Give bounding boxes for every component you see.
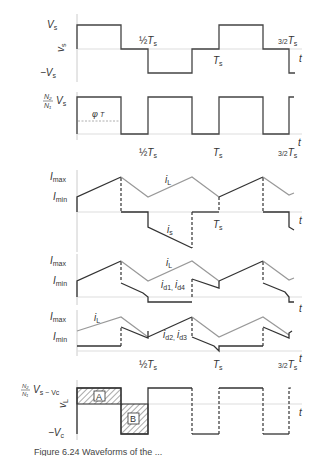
t-label: t: [299, 215, 303, 226]
imin-label: Imin: [53, 275, 67, 287]
three-half-ts-label: 3/2Ts: [278, 147, 298, 159]
area-a-label: A: [96, 392, 102, 402]
id14-waveform: [192, 279, 219, 288]
phi-label: φT: [92, 109, 105, 119]
il-waveform-gray: [192, 317, 289, 337]
t-label: t: [299, 353, 303, 364]
id23-waveform: [121, 327, 148, 338]
panel-primary-voltage: Vs vs −Vs ½Ts Ts 3/2Ts t: [40, 14, 303, 82]
id23-waveform: [263, 327, 292, 338]
il-label: iL: [165, 174, 171, 186]
neg-vs-label: −Vs: [40, 67, 57, 79]
id1-id4-label: id1, id4: [161, 279, 185, 291]
n1-label: N₁: [44, 102, 52, 109]
id23-waveform: [192, 337, 263, 351]
vs-level-label: Vs: [47, 19, 58, 31]
ts-label: Ts: [213, 147, 223, 159]
t-label: t: [299, 303, 303, 314]
secondary-waveform: [77, 97, 294, 134]
il-waveform-dark: [77, 177, 121, 212]
vs-axis-label: vs: [55, 43, 67, 52]
panel-diode-d2-d3-current: Imax Imin iL id2, id3 ½Ts Ts 3/2Ts t: [50, 310, 303, 371]
half-ts-label: ½Ts: [139, 147, 157, 159]
il-waveform-dark: [219, 177, 263, 197]
il-waveform-gray: [263, 177, 294, 195]
il-label: iL: [166, 257, 172, 269]
imin-label: Imin: [53, 331, 67, 343]
neg-vc-label: −Vc: [48, 427, 65, 439]
imax-label: Imax: [50, 171, 67, 183]
il-waveform-gray: [263, 261, 294, 280]
vs-secondary-label: Vs: [56, 95, 67, 107]
panel-inductor-voltage: A B N₂ N₁ Vs − Vc vL −Vc t: [21, 380, 303, 440]
n2-label: N₂: [22, 383, 29, 389]
imax-label: Imax: [50, 311, 67, 323]
panel-switch-current: Imax Imin iL is Ts t: [50, 170, 303, 252]
ts-label: Ts: [213, 55, 223, 67]
n2-label: N₂: [44, 93, 52, 100]
t-label: t: [299, 407, 303, 418]
three-half-ts-label: 3/2Ts: [278, 359, 298, 371]
figure-caption: Figure 6.24 Waveforms of the ...: [34, 447, 162, 456]
id2-id3-label: id2, id3: [163, 329, 187, 341]
vs-minus-vc-label: Vs − Vc: [33, 384, 60, 396]
half-ts-label: ½Ts: [139, 359, 157, 371]
t-label: t: [298, 137, 302, 148]
three-half-ts-label: 3/2Ts: [278, 35, 298, 47]
panel-diode-d1-d4-current: Imax Imin iL id1, id4 t: [50, 254, 303, 314]
t-label: t: [299, 53, 303, 64]
vl-axis-label: vL: [57, 399, 69, 408]
il-waveform-dark: [77, 261, 121, 297]
il-waveform-dark: [219, 261, 263, 281]
dashed-edge: [289, 388, 293, 434]
is-waveform: [263, 212, 294, 230]
is-waveform: [121, 212, 192, 248]
waveform-figure: Vs vs −Vs ½Ts Ts 3/2Ts t φT N₂ N₁ Vs ½Ts…: [0, 0, 322, 456]
il-label: iL: [94, 312, 100, 324]
panel-secondary-voltage: φT N₂ N₁ Vs ½Ts Ts 3/2Ts t: [43, 92, 302, 159]
id14-waveform: [263, 283, 294, 302]
is-label: is: [167, 224, 173, 236]
imin-label: Imin: [53, 191, 67, 203]
area-b-label: B: [130, 414, 136, 424]
ts-label: Ts: [213, 359, 223, 371]
n1-label: N₁: [22, 391, 28, 397]
ts-label: Ts: [213, 219, 223, 231]
imax-label: Imax: [50, 255, 67, 267]
half-ts-label: ½Ts: [139, 35, 157, 47]
